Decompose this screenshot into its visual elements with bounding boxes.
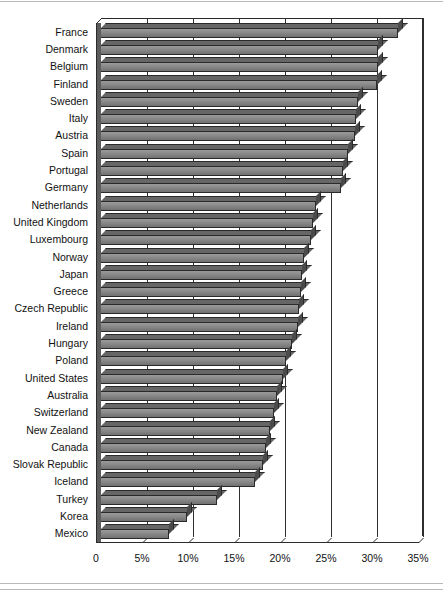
- tick-diagonal: [234, 537, 240, 543]
- bar-greece: [96, 287, 301, 297]
- category-label-belgium: Belgium: [50, 61, 88, 72]
- bar-poland: [96, 356, 286, 366]
- category-label-united-kingdom: United Kingdom: [13, 217, 88, 228]
- tick-diagonal: [280, 537, 286, 543]
- category-label-poland: Poland: [55, 355, 88, 366]
- category-label-czech-republic: Czech Republic: [14, 303, 88, 314]
- category-label-sweden: Sweden: [50, 96, 88, 107]
- value-tick-label-7: 35%: [407, 552, 428, 564]
- value-tick-label-0: 0: [93, 552, 99, 564]
- bar-finland: [96, 80, 377, 90]
- bar-czech-republic: [96, 304, 299, 314]
- value-tick-label-5: 25%: [315, 552, 336, 564]
- category-label-greece: Greece: [54, 286, 88, 297]
- category-label-turkey: Turkey: [56, 494, 88, 505]
- plot-area: [96, 18, 424, 543]
- value-axis-labels: 05%10%15%20%25%30%35%: [0, 552, 443, 572]
- value-tick-label-4: 20%: [269, 552, 290, 564]
- scan-rule-bottom-2: [0, 589, 443, 590]
- bar-mexico: [96, 529, 169, 539]
- category-label-slovak-republic: Slovak Republic: [13, 459, 88, 470]
- category-label-netherlands: Netherlands: [31, 200, 88, 211]
- value-tick-label-1: 5%: [134, 552, 149, 564]
- bar-canada: [96, 443, 266, 453]
- bar-hungary: [96, 339, 292, 349]
- category-label-germany: Germany: [45, 182, 88, 193]
- tick-diagonal: [372, 537, 378, 543]
- bar-spain: [96, 149, 348, 159]
- tick-diagonal: [418, 537, 424, 543]
- bar-germany: [96, 183, 341, 193]
- bar-switzerland: [96, 408, 274, 418]
- tick-diagonal: [326, 537, 332, 543]
- category-label-luxembourg: Luxembourg: [30, 234, 88, 245]
- scan-rule-bottom: [0, 583, 443, 584]
- category-label-canada: Canada: [51, 442, 88, 453]
- category-label-austria: Austria: [55, 130, 88, 141]
- bar-united-states: [96, 374, 283, 384]
- category-label-switzerland: Switzerland: [34, 407, 88, 418]
- bar-luxembourg: [96, 235, 311, 245]
- bar-iceland: [96, 477, 255, 487]
- value-axis-line: [96, 23, 97, 543]
- bar-france: [96, 28, 398, 38]
- category-label-australia: Australia: [47, 390, 88, 401]
- bar-austria: [96, 131, 355, 141]
- gridline-30: [377, 18, 378, 537]
- tick-diagonal: [188, 537, 194, 543]
- axis-depth-diagonal: [96, 18, 102, 24]
- category-label-iceland: Iceland: [54, 476, 88, 487]
- gridline-35: [423, 18, 424, 537]
- category-label-ireland: Ireland: [56, 321, 88, 332]
- category-label-france: France: [55, 27, 88, 38]
- category-label-norway: Norway: [52, 252, 88, 263]
- value-tick-label-2: 10%: [177, 552, 198, 564]
- bar-turkey: [96, 495, 217, 505]
- bar-united-kingdom: [96, 218, 313, 228]
- category-label-spain: Spain: [61, 148, 88, 159]
- bar-slovak-republic: [96, 460, 263, 470]
- bar-new-zealand: [96, 426, 270, 436]
- value-tick-label-3: 15%: [223, 552, 244, 564]
- category-label-portugal: Portugal: [49, 165, 88, 176]
- category-label-korea: Korea: [60, 511, 88, 522]
- category-label-mexico: Mexico: [55, 528, 88, 539]
- bar-norway: [96, 253, 304, 263]
- category-label-new-zealand: New Zealand: [26, 425, 88, 436]
- category-label-denmark: Denmark: [45, 44, 88, 55]
- bar-italy: [96, 114, 356, 124]
- bar-denmark: [96, 45, 378, 55]
- chart-figure: FranceDenmarkBelgiumFinlandSwedenItalyAu…: [0, 0, 443, 591]
- bar-belgium: [96, 62, 378, 72]
- bar-portugal: [96, 166, 343, 176]
- bar-netherlands: [96, 201, 316, 211]
- bar-japan: [96, 270, 302, 280]
- category-label-italy: Italy: [69, 113, 88, 124]
- tick-diagonal: [142, 537, 148, 543]
- bar-australia: [96, 391, 277, 401]
- category-label-japan: Japan: [59, 269, 88, 280]
- bar-ireland: [96, 322, 298, 332]
- category-label-finland: Finland: [54, 79, 88, 90]
- category-label-united-states: United States: [25, 373, 88, 384]
- scan-rule-top: [0, 1, 443, 2]
- bar-sweden: [96, 97, 358, 107]
- category-axis-labels: FranceDenmarkBelgiumFinlandSwedenItalyAu…: [0, 18, 93, 543]
- category-label-hungary: Hungary: [48, 338, 88, 349]
- value-tick-label-6: 30%: [361, 552, 382, 564]
